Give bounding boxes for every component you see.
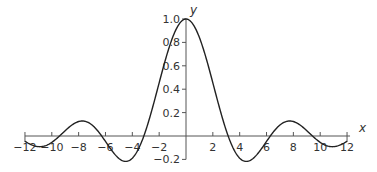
x-tick-label: 8 xyxy=(290,141,297,154)
x-tick-label: −4 xyxy=(124,141,140,154)
y-axis-label: y xyxy=(189,3,198,17)
x-tick-label: 2 xyxy=(209,141,216,154)
chart-svg: −12−10−8−6−4−224681012−0.20.20.40.60.81.… xyxy=(0,0,377,172)
x-axis-label: x xyxy=(358,121,367,135)
x-tick-label: −6 xyxy=(97,141,113,154)
x-tick-label: 4 xyxy=(236,141,243,154)
y-tick-label: 0.4 xyxy=(163,83,181,96)
sinc-function-chart: −12−10−8−6−4−224681012−0.20.20.40.60.81.… xyxy=(0,0,377,172)
axes xyxy=(25,19,350,159)
y-tick-label: 0.2 xyxy=(163,107,181,120)
x-tick-label: −8 xyxy=(71,141,87,154)
y-tick-label: 1.0 xyxy=(163,13,181,26)
y-tick-label: −0.2 xyxy=(153,153,180,166)
x-tick-label: 12 xyxy=(340,141,354,154)
x-tick-label: 6 xyxy=(263,141,270,154)
x-tick-label: −2 xyxy=(151,141,167,154)
x-tick-label: −12 xyxy=(13,141,36,154)
